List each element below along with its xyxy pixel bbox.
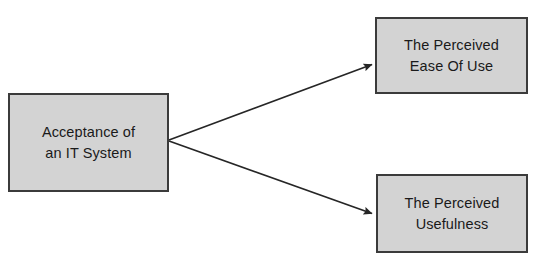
node-ease-of-use-line-2: Ease Of Use [410,56,493,77]
node-acceptance-line-1: Acceptance of [42,122,135,143]
node-the-perceived-ease-of-use: The Perceived Ease Of Use [375,17,528,94]
node-ease-of-use-line-1: The Perceived [404,35,499,56]
node-acceptance-line-2: an IT System [45,143,131,164]
edge-acceptance-to-ease-of-use [169,65,372,141]
node-the-perceived-usefulness: The Perceived Usefulness [376,174,528,253]
diagram-canvas: Acceptance of an IT System The Perceived… [0,0,540,269]
edge-acceptance-to-usefulness [169,141,372,214]
node-acceptance-of-an-it-system: Acceptance of an IT System [8,93,169,192]
node-usefulness-line-1: The Perceived [405,193,500,214]
node-usefulness-line-2: Usefulness [416,214,489,235]
